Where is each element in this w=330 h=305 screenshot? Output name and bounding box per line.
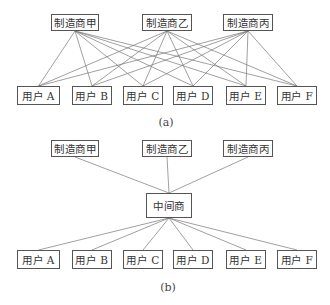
manufacturer-bing-a: 制造商丙 [223,14,273,31]
user-e-a: 用户 E [226,86,266,105]
manufacturer-jia-a: 制造商甲 [51,14,99,31]
user-f-b: 用户 F [277,250,317,269]
user-c-b: 用户 C [123,250,163,269]
manufacturer-bing-b: 制造商丙 [223,140,273,157]
user-b-b: 用户 B [72,250,112,269]
user-f-a: 用户 F [277,86,317,105]
manufacturer-yi-a: 制造商乙 [142,14,192,31]
user-a-a: 用户 A [17,86,60,105]
user-b-a: 用户 B [72,86,112,105]
user-e-b: 用户 E [226,250,266,269]
user-a-b: 用户 A [17,250,60,269]
manufacturer-yi-b: 制造商乙 [142,140,192,157]
intermediary: 中间商 [146,193,192,218]
manufacturer-jia-b: 制造商甲 [51,140,99,157]
user-d-a: 用户 D [173,86,213,105]
caption-b: (b) [153,281,183,294]
caption-a: (a) [151,116,181,129]
user-d-b: 用户 D [173,250,213,269]
user-c-a: 用户 C [123,86,163,105]
